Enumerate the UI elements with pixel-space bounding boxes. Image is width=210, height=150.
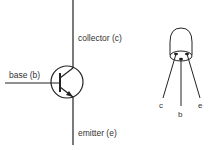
transistor-circle bbox=[51, 66, 83, 98]
pin-c-dot bbox=[174, 53, 178, 56]
transistor-package bbox=[163, 28, 200, 106]
emitter-label: emitter (e) bbox=[78, 128, 117, 138]
collector-label: collector (c) bbox=[78, 33, 122, 43]
transistor-diagram: collector (c) base (b) emitter (e) c b e bbox=[0, 0, 210, 150]
pin-c-label: c bbox=[159, 101, 163, 110]
collector-diagonal bbox=[60, 68, 73, 78]
pin-e-label: e bbox=[198, 101, 203, 110]
package-pins bbox=[174, 53, 189, 61]
pin-b-label: b bbox=[178, 110, 183, 119]
pin-b-dot bbox=[179, 58, 183, 61]
lead-e bbox=[187, 54, 200, 98]
lead-c bbox=[163, 54, 176, 98]
base-label: base (b) bbox=[9, 70, 40, 80]
pin-e-dot bbox=[185, 53, 189, 56]
